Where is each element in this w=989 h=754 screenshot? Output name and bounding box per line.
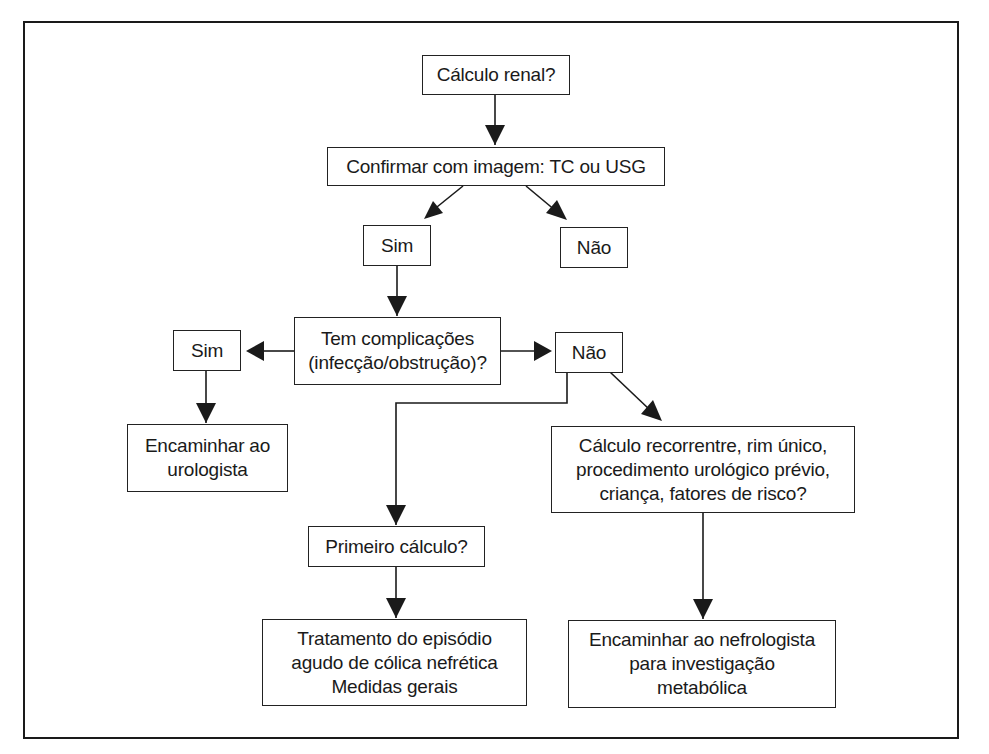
node-refer-urologist: Encaminhar ao urologista: [127, 424, 288, 492]
node-complications-no: Não: [555, 332, 623, 373]
node-confirm-imaging: Confirmar com imagem: TC ou USG: [327, 147, 665, 186]
node-imaging-yes: Sim: [363, 225, 431, 266]
node-kidney-stone-question: Cálculo renal?: [422, 55, 570, 95]
node-complications-question: Tem complicações (infecção/obstrução)?: [294, 317, 501, 385]
node-first-stone-question: Primeiro cálculo?: [308, 526, 485, 567]
node-imaging-no: Não: [560, 227, 628, 268]
node-complications-yes: Sim: [173, 330, 241, 371]
node-acute-colic-treatment: Tratamento do episódio agudo de cólica n…: [262, 619, 527, 706]
node-refer-nephrologist: Encaminhar ao nefrologista para investig…: [568, 620, 836, 708]
node-risk-factors-question: Cálculo recorrentre, rim único, procedim…: [551, 426, 855, 513]
